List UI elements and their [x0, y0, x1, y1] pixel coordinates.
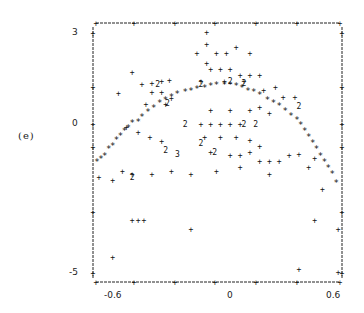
- axis-tick-mark: +: [213, 19, 218, 28]
- axis-tick-mark: +: [338, 278, 343, 287]
- data-point: +: [228, 106, 233, 115]
- data-point: +: [267, 109, 272, 118]
- data-point: 2: [183, 120, 188, 129]
- axis-tick-mark: +: [173, 278, 178, 287]
- data-point: +: [273, 83, 278, 92]
- axis-tick-mark: +: [91, 269, 96, 278]
- data-point: +: [247, 106, 252, 115]
- data-point: +: [261, 86, 266, 95]
- data-point: *: [288, 111, 293, 121]
- data-point: +: [140, 80, 145, 89]
- data-point: +: [208, 106, 213, 115]
- axis-tick-mark: +: [338, 19, 343, 28]
- scatter-plot-panel: ++++++++++++++++++++++++++**************…: [0, 0, 364, 313]
- data-point: *: [157, 98, 162, 108]
- data-point: +: [238, 163, 243, 172]
- data-point: *: [277, 101, 282, 111]
- data-point: 2: [296, 102, 301, 111]
- data-point: +: [208, 120, 213, 129]
- data-point: +: [136, 128, 141, 137]
- data-point: +: [306, 163, 311, 172]
- data-point: *: [175, 89, 180, 99]
- data-point: +: [247, 148, 252, 157]
- data-point: +: [336, 268, 341, 277]
- axis-tick-mark: +: [254, 278, 259, 287]
- data-point: +: [224, 49, 229, 58]
- data-point: +: [144, 100, 149, 109]
- axis-tick-mark: +: [254, 19, 259, 28]
- data-point: 2: [165, 99, 170, 108]
- plot-area: ++++++++++++++++++++++++++**************…: [0, 0, 364, 313]
- data-point: +: [136, 216, 141, 225]
- data-point: +: [234, 133, 239, 142]
- data-point: +: [194, 49, 199, 58]
- axis-tick-mark: +: [340, 208, 345, 217]
- data-point: *: [333, 178, 338, 188]
- data-point: *: [182, 87, 187, 97]
- axis-tick-mark: +: [91, 208, 96, 217]
- data-point: +: [277, 157, 282, 166]
- data-point: *: [139, 112, 144, 122]
- data-point: +: [167, 76, 172, 85]
- axis-tick-mark: +: [295, 19, 300, 28]
- data-point: *: [214, 80, 219, 90]
- data-point: 2: [253, 120, 258, 129]
- data-point: +: [198, 120, 203, 129]
- data-point: +: [214, 49, 219, 58]
- data-point: +: [247, 49, 252, 58]
- data-point: +: [238, 151, 243, 160]
- axis-tick-mark: +: [91, 120, 96, 129]
- x-tick-label-neg0.6: -0.6: [104, 290, 122, 300]
- data-point: 2: [198, 80, 203, 89]
- data-point: +: [169, 167, 174, 176]
- data-point: +: [110, 253, 115, 262]
- data-point: +: [234, 43, 239, 52]
- axis-tick-mark: +: [340, 120, 345, 129]
- axes-frame: [93, 23, 342, 282]
- data-point: +: [228, 151, 233, 160]
- data-point: *: [188, 86, 193, 96]
- data-point: *: [265, 95, 270, 105]
- data-point: 2: [228, 77, 233, 86]
- data-point: +: [159, 137, 164, 146]
- axis-tick-mark: +: [94, 19, 99, 28]
- axis-tick-mark: +: [132, 278, 137, 287]
- data-point: *: [130, 118, 135, 128]
- data-point: +: [247, 136, 252, 145]
- data-point: +: [228, 65, 233, 74]
- y-tick-label-0: 0: [72, 118, 78, 128]
- data-point: *: [208, 81, 213, 91]
- data-point: +: [159, 88, 164, 97]
- data-point: +: [149, 79, 154, 88]
- data-point: 3: [175, 150, 180, 159]
- data-point: +: [267, 170, 272, 179]
- data-point: +: [120, 167, 125, 176]
- data-point: +: [218, 65, 223, 74]
- data-point: 2: [163, 146, 168, 155]
- data-point: +: [257, 142, 262, 151]
- data-point: 2: [130, 173, 135, 182]
- data-point: +: [124, 123, 129, 132]
- data-point: +: [214, 167, 219, 176]
- data-point: *: [233, 81, 238, 91]
- data-point: *: [271, 98, 276, 108]
- data-point: +: [257, 103, 262, 112]
- data-point: +: [130, 68, 135, 77]
- data-point: +: [96, 173, 101, 182]
- data-point: 2: [242, 120, 247, 129]
- axis-tick-mark: +: [91, 143, 96, 152]
- data-point: +: [336, 225, 341, 234]
- data-point: +: [320, 185, 325, 194]
- data-point: *: [251, 87, 256, 97]
- data-point: +: [218, 133, 223, 142]
- data-point: 2: [242, 79, 247, 88]
- data-point: +: [149, 170, 154, 179]
- data-point: +: [149, 88, 154, 97]
- data-point: +: [147, 133, 152, 142]
- x-tick-label-0: 0: [227, 290, 233, 300]
- axis-tick-mark: +: [91, 29, 96, 38]
- data-point: 2: [212, 148, 217, 157]
- data-point: +: [208, 65, 213, 74]
- axis-tick-mark: +: [132, 19, 137, 28]
- data-point: +: [189, 170, 194, 179]
